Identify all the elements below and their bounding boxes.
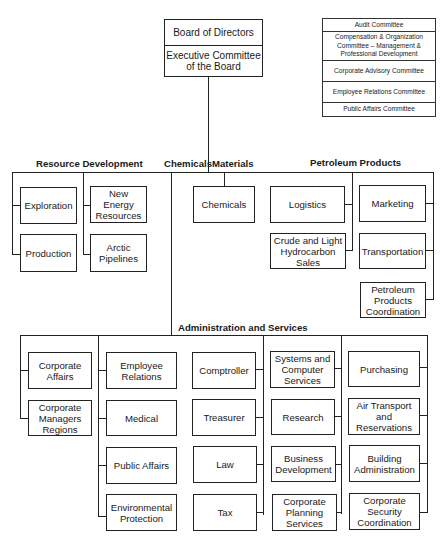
unit-building-administration: Building Administration	[349, 445, 420, 482]
group-label-chemicals: Chemicals	[164, 158, 212, 169]
unit-air-transport-reservations: Air Transport and Reservations	[348, 398, 420, 435]
connector	[98, 516, 106, 517]
unit-corporate-security-coordination: Corporate Security Coordination	[349, 493, 420, 530]
connector-admin-spine2	[98, 335, 99, 517]
connector	[20, 370, 28, 371]
connector-chemicals-to-admin	[171, 172, 172, 336]
connector-division-bar	[12, 172, 434, 173]
connector	[334, 368, 341, 369]
unit-public-affairs: Public Affairs	[106, 447, 177, 484]
unit-corporate-managers-regions: Corporate Managers Regions	[28, 400, 92, 436]
unit-corporate-affairs: Corporate Affairs	[28, 352, 92, 389]
unit-law: Law	[193, 446, 257, 483]
connector	[344, 204, 352, 205]
connector-admin-bar	[20, 335, 428, 336]
unit-exploration: Exploration	[20, 187, 77, 224]
connector-admin-spine1	[20, 335, 21, 419]
connector	[255, 369, 263, 370]
unit-research: Research	[271, 399, 335, 435]
unit-petroleum-products-coordination: Petroleum Products Coordination	[360, 282, 426, 318]
unit-marketing: Marketing	[359, 185, 426, 222]
unit-environmental-protection: Environmental Protection	[106, 494, 177, 531]
unit-chemicals: Chemicals	[193, 186, 255, 223]
connector-admin-spine3	[263, 335, 264, 515]
connector	[425, 250, 433, 251]
connector-pp-spine1	[352, 172, 353, 251]
group-label-materials: Materials	[212, 158, 254, 169]
connector	[98, 370, 106, 371]
unit-purchasing: Purchasing	[348, 351, 420, 387]
unit-business-development: Business Development	[271, 446, 336, 482]
connector-rd-spine1	[12, 172, 13, 255]
connector	[98, 418, 106, 419]
connector	[255, 417, 263, 418]
connector	[419, 463, 427, 464]
unit-production: Production	[20, 234, 77, 272]
connector	[83, 205, 90, 206]
unit-systems-computer-services: Systems and Computer Services	[270, 351, 335, 388]
group-label-administration: Administration and Services	[178, 322, 308, 333]
unit-logistics: Logistics	[270, 186, 345, 223]
board-of-directors: Board of Directors	[165, 20, 262, 46]
executive-committee: Executive Committee of the Board	[165, 46, 262, 76]
connector	[425, 299, 433, 300]
unit-tax: Tax	[193, 494, 257, 531]
connector	[419, 415, 427, 416]
committees-list: Audit Committee Compensation & Organizat…	[322, 18, 436, 117]
group-label-resource-development: Resource Development	[36, 158, 143, 169]
connector	[419, 367, 427, 368]
connector	[20, 418, 28, 419]
unit-arctic-pipelines: Arctic Pipelines	[90, 234, 147, 272]
unit-medical: Medical	[106, 400, 177, 436]
connector	[425, 203, 433, 204]
unit-corporate-planning-services: Corporate Planning Services	[272, 494, 337, 531]
unit-transportation: Transportation	[359, 233, 426, 269]
connector	[224, 172, 225, 186]
unit-treasurer: Treasurer	[192, 399, 256, 436]
unit-new-energy-resources: New Energy Resources	[90, 186, 147, 223]
connector	[345, 250, 352, 251]
board-of-directors-box: Board of Directors Executive Committee o…	[164, 19, 263, 77]
committee-compensation: Compensation & Organization Committee – …	[323, 32, 435, 61]
connector-rd-spine2	[83, 172, 84, 255]
unit-comptroller: Comptroller	[192, 352, 256, 389]
unit-employee-relations: Employee Relations	[106, 352, 177, 389]
connector	[12, 205, 20, 206]
group-label-petroleum-products: Petroleum Products	[310, 157, 401, 168]
connector	[98, 465, 106, 466]
committee-corporate-advisory: Corporate Advisory Committee	[323, 61, 435, 82]
committee-public-affairs: Public Affairs Committee	[323, 103, 435, 116]
connector-admin-spine4	[341, 335, 342, 514]
committee-audit: Audit Committee	[323, 19, 435, 32]
connector	[334, 416, 341, 417]
connector-pp-spine2	[433, 172, 434, 300]
committee-employee-relations: Employee Relations Committee	[323, 82, 435, 103]
connector	[419, 512, 427, 513]
connector-admin-spine5	[427, 335, 428, 513]
connector	[12, 254, 20, 255]
unit-crude-light-hydrocarbon-sales: Crude and Light Hydrocarbon Sales	[270, 233, 346, 269]
connector	[83, 254, 90, 255]
